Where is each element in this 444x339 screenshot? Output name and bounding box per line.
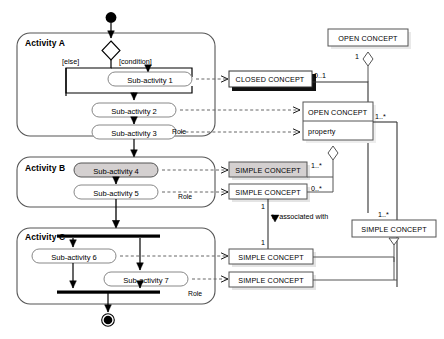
class-simple-concept-b1-label: SIMPLE CONCEPT <box>235 165 301 174</box>
class-closed-concept-label: CLOSED CONCEPT <box>236 75 305 84</box>
activity-c-title: Activity C <box>25 232 65 242</box>
activity-a-role-label: Role <box>172 128 186 135</box>
sub-activity-5-label: Sub-activity 5 <box>93 188 139 197</box>
sub-activity-4-label: Sub-activity 4 <box>93 166 139 175</box>
class-simple-concept-right-label: SIMPLE CONCEPT <box>361 224 427 233</box>
aggregation-diamond-top <box>363 52 373 82</box>
aggregation-diamond-property <box>328 146 338 177</box>
class-simple-concept-b2-label: SIMPLE CONCEPT <box>235 187 301 196</box>
activity-c-role-label: Role <box>188 290 202 297</box>
class-open-concept-top-label: OPEN CONCEPT <box>338 33 397 42</box>
guard-else: [else] <box>62 57 79 66</box>
sub-activity-3-label: Sub-activity 3 <box>111 128 157 137</box>
activity-b-title: Activity B <box>25 163 65 173</box>
class-simple-concept-c1-label: SIMPLE CONCEPT <box>238 252 304 261</box>
multiplicity-simple-concept-b2: 0..* <box>311 184 322 193</box>
multiplicity-assoc-bottom: 1 <box>261 238 265 247</box>
diagram-canvas: Activity A Activity B Activity C [else] … <box>0 0 444 339</box>
activity-a-title: Activity A <box>25 38 65 48</box>
diagram-vector-layer <box>0 0 444 339</box>
sub-activity-1-label: Sub-activity 1 <box>127 75 173 84</box>
multiplicity-simple-concept-right: 1..* <box>378 210 389 219</box>
association-label: is associated with <box>272 212 328 221</box>
multiplicity-closed-concept: 0..1 <box>314 71 326 80</box>
class-open-concept-property-label: OPEN CONCEPT <box>308 108 367 117</box>
class-open-concept-property-compartment: property <box>308 127 336 136</box>
decision-node <box>102 41 120 60</box>
multiplicity-assoc-top: 1 <box>261 202 265 211</box>
assoc-is-associated-with-line <box>268 199 279 249</box>
sub-activity-6-label: Sub-activity 6 <box>51 252 97 261</box>
multiplicity-open-concept-top: 1 <box>355 52 359 61</box>
activity-b-role-label: Role <box>178 193 192 200</box>
sub-activity-2-label: Sub-activity 2 <box>111 106 157 115</box>
multiplicity-open-concept-property: 1..* <box>375 112 386 121</box>
guard-condition: [condition] <box>119 57 152 66</box>
initial-node <box>106 12 117 38</box>
class-simple-concept-c2-label: SIMPLE CONCEPT <box>238 275 304 284</box>
final-node <box>102 293 115 326</box>
multiplicity-simple-concept-b1: 1..* <box>311 161 322 170</box>
fork-bar <box>57 235 160 238</box>
sub-activity-7-label: Sub-activity 7 <box>123 275 169 284</box>
